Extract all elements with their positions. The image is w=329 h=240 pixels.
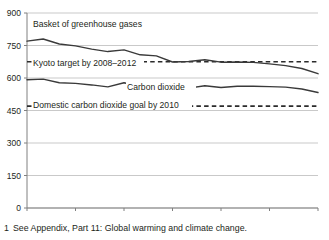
y-axis-ticks: 0150300450600750900 — [7, 8, 27, 213]
footnote-marker: 1 — [4, 223, 9, 233]
series-label-greenhouse: Basket of greenhouse gases — [33, 19, 142, 29]
series-label-carbon: Carbon dioxide — [127, 82, 185, 92]
reference-label-domestic: Domestic carbon dioxide goal by 2010 — [33, 100, 179, 110]
footnote-text: See Appendix, Part 11: Global warming an… — [13, 223, 247, 233]
chart-plot-area: 0150300450600750900 19901993199619992002… — [0, 0, 329, 214]
gridlines — [27, 13, 318, 208]
y-tick-label: 900 — [7, 8, 21, 18]
reference-label-kyoto: Kyoto target by 2008–2012 — [33, 58, 136, 68]
footnote: 1See Appendix, Part 11: Global warming a… — [4, 223, 326, 234]
chart-figure: 0150300450600750900 19901993199619992002… — [0, 0, 329, 240]
y-tick-label: 0 — [16, 203, 21, 213]
y-tick-label: 300 — [7, 138, 21, 148]
line-chart-svg: 0150300450600750900 19901993199619992002… — [0, 0, 329, 214]
x-axis-ticks: 1990199319961999200220052008 — [18, 208, 328, 214]
series-line — [27, 39, 318, 74]
y-tick-label: 750 — [7, 41, 21, 51]
y-tick-label: 600 — [7, 73, 21, 83]
y-tick-label: 450 — [7, 106, 21, 116]
y-tick-label: 150 — [7, 171, 21, 181]
